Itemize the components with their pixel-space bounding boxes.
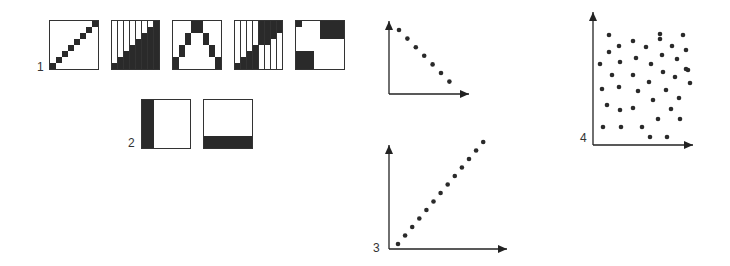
data-point	[649, 62, 654, 67]
data-point	[669, 107, 674, 112]
data-point	[660, 53, 665, 58]
data-point	[665, 135, 670, 140]
data-point	[631, 73, 636, 78]
data-point	[688, 81, 693, 86]
scatter-plot-random	[0, 0, 730, 266]
data-point	[661, 70, 666, 75]
data-point	[640, 125, 645, 130]
data-point	[607, 50, 612, 55]
data-point	[619, 125, 624, 130]
data-point	[664, 88, 669, 93]
x-arrow-icon	[684, 141, 693, 149]
data-point	[684, 48, 689, 53]
data-point	[600, 87, 605, 92]
data-point	[605, 103, 610, 108]
data-point	[647, 80, 652, 85]
y-arrow-icon	[589, 12, 597, 21]
data-point	[610, 73, 615, 78]
data-point	[618, 108, 623, 113]
data-point	[636, 89, 641, 94]
data-point	[658, 32, 663, 37]
data-point	[644, 45, 649, 50]
data-point	[673, 75, 678, 80]
data-point	[634, 56, 639, 61]
data-point	[601, 125, 606, 130]
data-point	[617, 44, 622, 49]
data-point	[681, 33, 686, 38]
data-point	[675, 57, 680, 62]
data-point	[678, 117, 683, 122]
data-point	[658, 37, 663, 42]
data-point	[618, 60, 623, 65]
data-point	[631, 39, 636, 44]
data-point	[607, 33, 612, 38]
data-point	[631, 106, 636, 111]
data-point	[648, 135, 653, 140]
data-point	[684, 67, 689, 72]
data-point	[670, 44, 675, 49]
data-point	[598, 62, 603, 67]
data-point	[677, 96, 682, 101]
data-point	[617, 85, 622, 90]
data-point	[651, 98, 656, 103]
data-point	[656, 117, 661, 122]
